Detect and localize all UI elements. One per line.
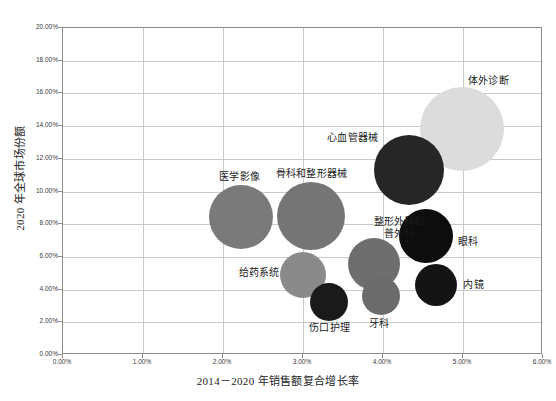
y-axis-tick-mark	[58, 321, 62, 322]
bubble-医学影像[interactable]	[209, 185, 273, 249]
y-axis-tick-label: 16.00%	[0, 88, 58, 95]
x-axis-tick-mark	[542, 354, 543, 358]
x-axis-tick-mark	[462, 354, 463, 358]
y-axis-tick-mark	[58, 125, 62, 126]
y-axis-tick-label: 14.00%	[0, 121, 58, 128]
x-axis-tick-label: 5.00%	[432, 358, 492, 365]
gridline-vertical	[143, 28, 144, 353]
bubble-label-伤口护理: 伤口护理	[309, 322, 350, 334]
y-axis-tick-label: 18.00%	[0, 56, 58, 63]
bubble-心血管器械[interactable]	[374, 135, 444, 205]
y-axis-tick-label: 20.00%	[0, 23, 58, 30]
y-axis-tick-mark	[58, 92, 62, 93]
bubble-label-体外诊断: 体外诊断	[468, 75, 509, 87]
y-axis-tick-mark	[58, 158, 62, 159]
bubble-label-内镜: 内镜	[463, 279, 483, 291]
x-axis-tick-label: 1.00%	[112, 358, 172, 365]
bubble-label-牙科: 牙科	[369, 318, 389, 330]
bubble-label-骨科和整形器械: 骨科和整形器械	[276, 168, 347, 180]
y-axis-tick-label: 0.00%	[0, 350, 58, 357]
y-axis-title: 2020 年全球市场份额	[11, 63, 27, 293]
x-axis-tick-mark	[382, 354, 383, 358]
y-axis-tick-mark	[58, 60, 62, 61]
y-axis-tick-mark	[58, 289, 62, 290]
y-axis-tick-label: 12.00%	[0, 154, 58, 161]
bubble-牙科[interactable]	[362, 277, 400, 315]
x-axis-title: 2014－2020 年销售额复合增长率	[0, 372, 556, 388]
x-axis-tick-label: 0.00%	[32, 358, 92, 365]
bubble-label-心血管器械: 心血管器械	[327, 132, 378, 144]
x-axis-tick-mark	[142, 354, 143, 358]
bubble-label-整形外科和普外科: 整形外科和普外科	[371, 216, 427, 240]
gridline-vertical	[463, 28, 464, 353]
x-axis-tick-mark	[222, 354, 223, 358]
bubble-label-医学影像: 医学影像	[219, 171, 260, 183]
y-axis-tick-mark	[58, 256, 62, 257]
y-axis-tick-label: 10.00%	[0, 187, 58, 194]
y-axis-tick-mark	[58, 27, 62, 28]
y-axis-tick-mark	[58, 223, 62, 224]
y-axis-tick-label: 2.00%	[0, 317, 58, 324]
x-axis-tick-label: 2.00%	[192, 358, 252, 365]
bubble-label-给药系统: 给药系统	[239, 267, 280, 279]
x-axis-tick-mark	[302, 354, 303, 358]
x-axis-tick-label: 3.00%	[272, 358, 332, 365]
y-axis-tick-label: 8.00%	[0, 219, 58, 226]
x-axis-tick-label: 6.00%	[512, 358, 556, 365]
y-axis-tick-mark	[58, 191, 62, 192]
bubble-label-眼科: 眼科	[458, 236, 478, 248]
x-axis-tick-label: 4.00%	[352, 358, 412, 365]
bubble-chart: 0.00%2.00%4.00%6.00%8.00%10.00%12.00%14.…	[0, 0, 556, 401]
gridline-horizontal	[63, 61, 541, 62]
y-axis-tick-label: 6.00%	[0, 252, 58, 259]
x-axis-tick-mark	[62, 354, 63, 358]
y-axis-tick-label: 4.00%	[0, 285, 58, 292]
bubble-伤口护理[interactable]	[310, 283, 348, 321]
bubble-骨科和整形器械[interactable]	[277, 182, 345, 250]
gridline-horizontal	[63, 322, 541, 323]
